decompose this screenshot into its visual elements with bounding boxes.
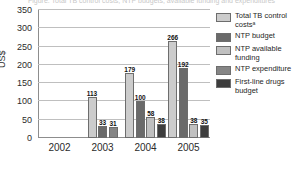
legend-item-ntp-expenditure: NTP expenditure (216, 65, 302, 75)
legend-label: Total TB control costsᵃ (235, 12, 302, 29)
legend-label: NTP expenditure (235, 65, 291, 74)
bar: 38 (157, 124, 166, 138)
legend-swatch-first-line-drugs-budget (216, 79, 231, 88)
legend-item-first-line-drugs-budget: First-line drugs budget (216, 78, 302, 95)
legend-swatch-ntp-budget (216, 33, 231, 42)
legend-item-total-tb-control-costs: Total TB control costsᵃ (216, 12, 302, 29)
figure-title: Figure. Total TB control costs, NTP budg… (0, 0, 303, 5)
y-tick-label: 100 (17, 97, 32, 106)
bar-value-label: 192 (178, 61, 189, 68)
legend-swatch-ntp-expenditure (216, 66, 231, 75)
y-tick-label: 150 (17, 79, 32, 88)
chart-legend: Total TB control costsᵃNTP budgetNTP ava… (216, 12, 302, 98)
legend-item-ntp-budget: NTP budget (216, 32, 302, 42)
legend-item-ntp-available-funding: NTP available funding (216, 45, 302, 62)
bar-value-label: 100 (135, 94, 146, 101)
bar: 38 (189, 124, 198, 138)
bar-value-label: 35 (201, 118, 208, 125)
bar-group-2005: 2661923835 (167, 10, 210, 138)
bar-value-label: 179 (124, 66, 135, 73)
bar-value-label: 58 (147, 110, 154, 117)
legend-swatch-total-tb-control-costs (216, 13, 231, 22)
bar: 100 (136, 101, 145, 138)
y-tick-label: 250 (17, 42, 32, 51)
bar-value-label: 266 (167, 34, 178, 41)
x-tick-label: 2002 (48, 142, 70, 154)
y-tick-label: 0 (27, 134, 32, 143)
bar-value-label: 31 (109, 120, 116, 127)
bar: 179 (125, 73, 134, 138)
bar: 33 (98, 126, 107, 138)
x-tick-label: 2004 (134, 142, 156, 154)
y-tick-label: 300 (17, 24, 32, 33)
x-axis-tick-labels: 2002200320042005 (38, 142, 210, 158)
y-tick-label: 50 (22, 115, 32, 124)
bar-value-label: 33 (99, 119, 106, 126)
chart-figure: Figure. Total TB control costs, NTP budg… (0, 0, 303, 170)
bar-group-2004: 1791005838 (124, 10, 167, 138)
bar: 31 (109, 127, 118, 138)
legend-label: First-line drugs budget (235, 78, 302, 95)
figure-title-strip: Figure. Total TB control costs, NTP budg… (0, 0, 303, 7)
bar: 35 (200, 125, 209, 138)
y-tick-label: 350 (17, 6, 32, 15)
bar-group-2003: 1133331 (81, 10, 124, 138)
legend-swatch-ntp-available-funding (216, 46, 231, 55)
bar-group-2002 (38, 10, 81, 138)
bar: 58 (146, 117, 155, 138)
legend-label: NTP budget (235, 32, 275, 41)
x-tick-label: 2005 (177, 142, 199, 154)
bar: 192 (179, 68, 188, 138)
bar-value-label: 38 (158, 117, 165, 124)
y-axis-tick-labels: 050100150200250300350 (0, 10, 36, 138)
bar: 113 (88, 97, 97, 138)
legend-label: NTP available funding (235, 45, 302, 62)
bar-value-label: 38 (190, 117, 197, 124)
plot-area: 113333117910058382661923835 (38, 10, 210, 138)
y-tick-label: 200 (17, 60, 32, 69)
bar: 266 (168, 41, 177, 138)
bar-value-label: 113 (87, 90, 98, 97)
x-tick-label: 2003 (91, 142, 113, 154)
